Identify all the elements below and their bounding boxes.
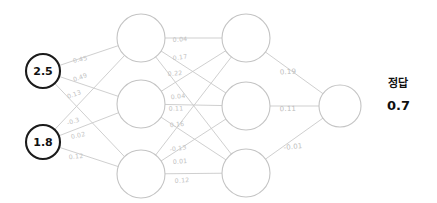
weight-label-w-h1-k1: 0.04 <box>173 35 188 43</box>
weight-label-w-i2-h2: 0.02 <box>70 130 86 140</box>
weight-label-w-h2-k1: 0.04 <box>170 92 185 100</box>
weight-label-w-k2-o1: 0.11 <box>280 105 297 114</box>
weight-label-w-h2-k3: 0.16 <box>169 120 184 128</box>
edge-k3-o1 <box>266 118 323 159</box>
weight-label-w-i1-h3: 0.13 <box>66 88 82 99</box>
answer-annotation: 정답 0.7 <box>386 78 436 113</box>
edge-i1-h1 <box>59 46 118 66</box>
weight-label-w-h2-k2: 0.11 <box>169 104 184 112</box>
node-label-i2: 1.8 <box>33 136 53 149</box>
weight-label-w-h1-k3: 0.22 <box>168 69 183 77</box>
edge-h3-k3 <box>165 173 222 174</box>
weight-label-w-h3-k3: 0.12 <box>175 176 190 184</box>
node-h3 <box>117 150 165 198</box>
node-label-i1: 2.5 <box>33 65 53 78</box>
weight-label-w-h3-k1: -0.13 <box>169 143 187 152</box>
node-h1 <box>117 14 165 62</box>
weight-label-w-i1-h2: 0.49 <box>72 71 88 82</box>
neural-network-diagram: 2.51.8 0.450.490.13-0.30.020.120.040.170… <box>0 0 437 203</box>
answer-value: 0.7 <box>387 99 436 113</box>
weight-label-w-k3-o1: -0.01 <box>283 142 303 152</box>
node-k1 <box>222 14 270 62</box>
answer-title: 정답 <box>388 78 436 90</box>
weight-label-w-i1-h1: 0.45 <box>72 54 88 64</box>
weight-label-w-i2-h1: -0.3 <box>66 116 80 127</box>
weight-label-w-h3-k2: 0.01 <box>172 157 187 165</box>
node-o1 <box>319 85 361 127</box>
node-k3 <box>222 149 270 197</box>
weight-label-w-k1-o1: 0.19 <box>280 67 297 76</box>
network-canvas: 2.51.8 0.450.490.13-0.30.020.120.040.170… <box>0 0 437 203</box>
node-h2 <box>117 80 165 128</box>
node-k2 <box>222 82 270 130</box>
weight-label-w-h1-k2: 0.17 <box>172 53 187 62</box>
weight-label-w-i2-h3: 0.12 <box>68 152 83 160</box>
